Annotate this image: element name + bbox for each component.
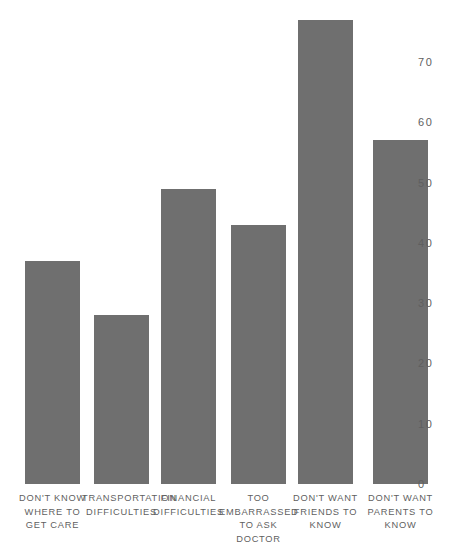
x-axis-category-label: DON'T KNOW WHERE TO GET CARE [13,492,92,533]
bar-group [298,20,353,484]
bar-group [25,261,80,484]
bar-group [231,225,286,484]
bar [25,261,80,484]
bar [231,225,286,484]
x-axis-category-label: DON'T WANT FRIENDS TO KNOW [286,492,365,533]
bar [161,189,216,484]
x-axis-category-label: FINANCIAL DIFFICULTIES [149,492,228,519]
y-axis-tick-label: 50 [418,177,448,189]
x-axis-category-label: DON'T WANT PARENTS TO KNOW [361,492,440,533]
y-axis-tick-label: 10 [418,418,448,430]
bar-group [161,189,216,484]
x-axis: DON'T KNOW WHERE TO GET CARETRANSPORTATI… [0,492,461,550]
y-axis-tick-label: 40 [418,237,448,249]
plot-area [0,0,461,484]
y-axis-tick-label: 30 [418,297,448,309]
bar-chart: 010203040506070 DON'T KNOW WHERE TO GET … [0,0,461,550]
bar [298,20,353,484]
y-axis-tick-label: 20 [418,357,448,369]
bar [94,315,149,484]
bar-group [94,315,149,484]
y-axis-tick-label: 60 [418,116,448,128]
y-axis: 010203040506070 [418,0,461,550]
y-axis-tick-label: 70 [418,56,448,68]
y-axis-tick-label: 0 [418,478,448,490]
